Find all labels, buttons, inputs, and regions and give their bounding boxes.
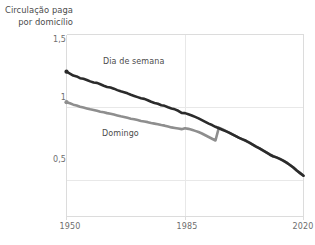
series-lines (64, 70, 303, 176)
series-start-marker-domingo (64, 100, 68, 104)
grid-lines (67, 35, 304, 217)
chart-plot-area (0, 0, 315, 245)
series-start-marker-dia-de-semana (64, 70, 68, 74)
chart-container: Circulação paga por domicílio 1,5 1 0,5 … (0, 0, 315, 245)
